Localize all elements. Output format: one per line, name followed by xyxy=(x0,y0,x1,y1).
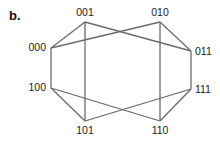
edges-group xyxy=(51,22,191,121)
node-label-101: 101 xyxy=(76,124,94,136)
node-label-000: 000 xyxy=(28,41,46,53)
node-label-111: 111 xyxy=(195,83,211,95)
node-label-001: 001 xyxy=(76,6,94,18)
hypercube-graph: 000001010011100101110111 xyxy=(0,0,220,142)
node-label-100: 100 xyxy=(28,81,46,93)
node-label-010: 010 xyxy=(151,6,169,18)
node-labels-group: 000001010011100101110111 xyxy=(28,6,211,136)
node-label-110: 110 xyxy=(152,124,169,136)
node-label-011: 011 xyxy=(195,45,212,57)
